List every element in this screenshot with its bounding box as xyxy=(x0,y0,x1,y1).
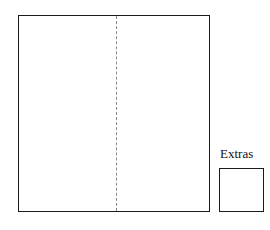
main-panel[interactable] xyxy=(18,15,210,212)
center-fold-line xyxy=(116,16,117,211)
extras-box[interactable] xyxy=(219,168,264,212)
diagram-canvas: Extras xyxy=(0,0,270,230)
extras-label: Extras xyxy=(220,146,253,161)
